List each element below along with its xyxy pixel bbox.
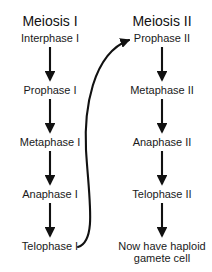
- node-telophase-ii: Telophase II: [132, 188, 191, 200]
- outcome-text: Now have haploid gamete cell: [118, 240, 205, 264]
- curved-arrow-telophase-i-to-prophase-ii: [78, 40, 129, 247]
- node-interphase-i: Interphase I: [21, 32, 79, 44]
- node-anaphase-i: Anaphase I: [22, 188, 78, 200]
- outcome-line-1: Now have haploid: [118, 240, 205, 252]
- node-metaphase-ii: Metaphase II: [130, 84, 194, 96]
- node-prophase-ii: Prophase II: [134, 32, 190, 44]
- node-prophase-i: Prophase I: [23, 84, 76, 96]
- outcome-line-2: gamete cell: [118, 252, 205, 264]
- node-metaphase-i: Metaphase I: [20, 136, 81, 148]
- node-anaphase-ii: Anaphase II: [133, 136, 192, 148]
- node-telophase-i: Telophase I: [22, 240, 78, 252]
- column-header-meiosis-i: Meiosis I: [22, 14, 77, 29]
- column-header-meiosis-ii: Meiosis II: [132, 14, 191, 29]
- meiosis-flow-chart: Meiosis I Meiosis II Interphase I Propha…: [0, 0, 212, 272]
